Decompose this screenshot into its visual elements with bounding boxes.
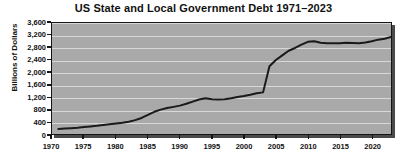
y-axis-tick-label: 0 xyxy=(0,131,46,140)
chart-title: US State and Local Government Debt 1971–… xyxy=(0,2,407,14)
x-axis-tick-mark xyxy=(243,135,245,139)
y-axis-tick-label: 3,200 xyxy=(0,30,46,39)
data-series-line xyxy=(52,23,391,134)
x-axis-tick-mark xyxy=(179,135,181,139)
x-axis-tick-mark xyxy=(275,135,277,139)
x-axis-tick-mark xyxy=(308,135,310,139)
y-axis-tick-label: 2,800 xyxy=(0,43,46,52)
x-axis-tick-mark xyxy=(340,135,342,139)
x-axis-tick-label: 2020 xyxy=(353,142,393,151)
chart-container: US State and Local Government Debt 1971–… xyxy=(0,0,407,166)
x-axis-tick-mark xyxy=(211,135,213,139)
x-axis-tick-mark xyxy=(372,135,374,139)
y-axis-tick-label: 400 xyxy=(0,118,46,127)
y-axis-tick-label: 1,200 xyxy=(0,93,46,102)
y-axis-tick-label: 2,000 xyxy=(0,68,46,77)
x-axis-tick-mark xyxy=(115,135,117,139)
y-axis-tick-label: 3,600 xyxy=(0,18,46,27)
y-axis-tick-label: 800 xyxy=(0,105,46,114)
x-axis-tick-mark xyxy=(147,135,149,139)
y-axis-tick-label: 2,400 xyxy=(0,55,46,64)
y-axis-tick-label: 1,600 xyxy=(0,80,46,89)
x-axis-tick-mark xyxy=(50,135,52,139)
plot-area xyxy=(51,22,392,135)
x-axis-tick-mark xyxy=(82,135,84,139)
